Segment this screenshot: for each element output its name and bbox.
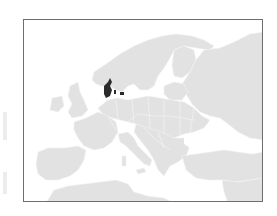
turkey xyxy=(182,150,263,182)
great-britain xyxy=(68,82,88,118)
europe-map xyxy=(24,20,263,202)
sicily xyxy=(136,168,146,174)
denmark-bornholm xyxy=(120,92,124,95)
baltics xyxy=(164,82,188,100)
north-africa xyxy=(46,180,174,202)
sardinia xyxy=(122,156,126,166)
black-sea xyxy=(184,130,236,150)
denmark-zealand xyxy=(114,90,116,94)
ireland xyxy=(50,96,64,112)
margin-mark xyxy=(3,172,7,194)
middle-east xyxy=(222,178,263,202)
margin-mark xyxy=(3,112,7,140)
iberia xyxy=(36,146,86,180)
map-frame xyxy=(23,19,263,202)
